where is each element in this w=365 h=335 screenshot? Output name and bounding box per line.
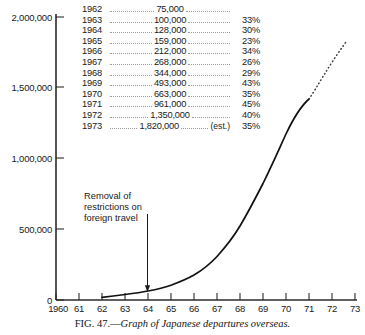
leader-dots xyxy=(188,85,230,86)
annotation-line-3: foreign travel xyxy=(84,213,142,224)
table-cell-pct: 33% xyxy=(232,15,260,26)
table-cell-pct: 30% xyxy=(232,25,260,36)
table-cell-value: 663,000 xyxy=(154,89,186,100)
table-cell-year: 1969 xyxy=(82,78,108,89)
table-cell-estimate-note: (est.) xyxy=(210,121,232,132)
x-tick-label-1960: 1960 xyxy=(48,303,68,314)
table-cell-value: 128,000 xyxy=(154,25,186,36)
table-cell-value: 159,000 xyxy=(154,36,186,47)
leader-dots xyxy=(188,43,230,44)
table-cell-year: 1964 xyxy=(82,25,108,36)
x-tick-label-1966: 66 xyxy=(189,303,199,314)
x-tick-label-1967: 67 xyxy=(212,303,222,314)
leader-dots xyxy=(192,117,230,118)
table-cell-year: 1970 xyxy=(82,89,108,100)
x-tick-label-1962: 62 xyxy=(97,303,107,314)
leader-dots xyxy=(110,64,152,65)
leader-dots xyxy=(110,11,154,12)
leader-dots xyxy=(188,32,230,33)
y-axis-ticks xyxy=(56,17,64,300)
table-cell-value: 961,000 xyxy=(154,99,186,110)
leader-dots xyxy=(110,96,152,97)
table-row: 1973 1,820,000 (est.) 35% xyxy=(82,121,260,132)
table-cell-pct: 26% xyxy=(232,57,260,68)
leader-dots xyxy=(181,128,208,129)
leader-dots xyxy=(110,43,152,44)
leader-dots xyxy=(186,11,230,12)
table-row: 1970 663,000 35% xyxy=(82,89,260,100)
figure-japanese-departures: 0 500,000 1,000,000 1,500,000 2,000,000 … xyxy=(0,0,365,335)
table-row: 1969 493,000 43% xyxy=(82,78,260,89)
table-cell-pct: 34% xyxy=(232,46,260,57)
leader-dots xyxy=(110,85,152,86)
leader-dots xyxy=(188,64,230,65)
table-cell-year: 1971 xyxy=(82,99,108,110)
x-tick-label-1972: 72 xyxy=(327,303,337,314)
table-cell-value: 268,000 xyxy=(154,57,186,68)
table-cell-pct: 35% xyxy=(232,89,260,100)
x-tick-label-1963: 63 xyxy=(120,303,130,314)
leader-dots xyxy=(110,128,137,129)
annotation-line-2: restrictions on xyxy=(84,202,142,213)
table-row: 1967 268,000 26% xyxy=(82,57,260,68)
table-row: 1971 961,000 45% xyxy=(82,99,260,110)
table-row: 1962 75,000 xyxy=(82,4,260,15)
leader-dots xyxy=(110,117,148,118)
leader-dots xyxy=(188,106,230,107)
x-tick-label-1961: 61 xyxy=(74,303,84,314)
table-cell-year: 1967 xyxy=(82,57,108,68)
y-tick-label-2000000: 2,000,000 xyxy=(0,12,52,23)
y-tick-label-1000000: 1,000,000 xyxy=(0,153,52,164)
leader-dots xyxy=(188,75,230,76)
table-row: 1968 344,000 29% xyxy=(82,68,260,79)
table-row: 1963 100,000 33% xyxy=(82,15,260,26)
table-cell-value: 1,820,000 xyxy=(139,121,179,132)
annotation-arrow xyxy=(145,214,150,292)
figure-number: FIG. 47. xyxy=(75,318,110,329)
caption-text: Graph of Japanese departures overseas. xyxy=(121,318,291,329)
x-axis-ticks xyxy=(56,293,355,300)
annotation-line-1: Removal of xyxy=(84,191,142,202)
leader-dots xyxy=(110,53,152,54)
table-cell-value: 1,350,000 xyxy=(150,110,190,121)
leader-dots xyxy=(110,22,152,23)
x-tick-label-1971: 71 xyxy=(304,303,314,314)
table-cell-value: 212,000 xyxy=(154,46,186,57)
x-tick-label-1965: 65 xyxy=(166,303,176,314)
leader-dots xyxy=(110,75,152,76)
leader-dots xyxy=(110,32,152,33)
table-cell-value: 75,000 xyxy=(156,4,183,15)
table-row: 1972 1,350,000 40% xyxy=(82,110,260,121)
x-tick-label-1968: 68 xyxy=(235,303,245,314)
table-cell-value: 344,000 xyxy=(154,68,186,79)
table-cell-year: 1963 xyxy=(82,15,108,26)
table-cell-year: 1966 xyxy=(82,46,108,57)
table-cell-pct: 43% xyxy=(232,78,260,89)
table-row: 1965 159,000 23% xyxy=(82,36,260,47)
y-tick-label-500000: 500,000 xyxy=(0,224,52,235)
data-curve-dotted-estimate xyxy=(309,42,346,99)
data-table: 1962 75,000 1963 100,000 33% 1964 128,00… xyxy=(82,4,260,131)
x-tick-label-1970: 70 xyxy=(281,303,291,314)
caption-dash: — xyxy=(110,318,121,329)
x-tick-label-1964: 64 xyxy=(143,303,153,314)
table-cell-year: 1972 xyxy=(82,110,108,121)
table-cell-pct: 23% xyxy=(232,36,260,47)
y-tick-label-0: 0 xyxy=(0,295,52,306)
table-cell-pct: 29% xyxy=(232,68,260,79)
figure-caption: FIG. 47.—Graph of Japanese departures ov… xyxy=(0,318,365,329)
table-cell-value: 100,000 xyxy=(154,15,186,26)
table-row: 1964 128,000 30% xyxy=(82,25,260,36)
table-cell-year: 1962 xyxy=(82,4,108,15)
leader-dots xyxy=(188,53,230,54)
table-cell-year: 1973 xyxy=(82,121,108,132)
x-tick-label-1969: 69 xyxy=(258,303,268,314)
table-cell-pct: 40% xyxy=(232,110,260,121)
leader-dots xyxy=(188,96,230,97)
table-cell-pct: 35% xyxy=(232,121,260,132)
table-cell-year: 1965 xyxy=(82,36,108,47)
x-tick-label-1973: 73 xyxy=(350,303,360,314)
leader-dots xyxy=(188,22,230,23)
leader-dots xyxy=(110,106,152,107)
y-tick-label-1500000: 1,500,000 xyxy=(0,82,52,93)
